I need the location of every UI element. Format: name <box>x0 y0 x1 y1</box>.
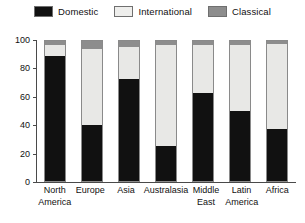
y-tick-label: 80 <box>20 63 30 73</box>
bar-segment-domestic <box>82 125 102 181</box>
category-label-line: Middle <box>188 184 224 196</box>
bar-slot <box>184 40 221 182</box>
bar-slot <box>37 40 74 182</box>
bar-segment-domestic <box>193 93 213 181</box>
stacked-bar[interactable] <box>229 40 251 182</box>
x-axis-line <box>36 182 296 183</box>
category-label-north-america: NorthAmerica <box>37 184 73 220</box>
stacked-bar-chart: Domestic International Classical 100 80 … <box>0 0 305 223</box>
category-label-line: Asia <box>108 184 144 196</box>
category-label-line: America <box>37 196 73 208</box>
y-tick-label: 0 <box>25 177 30 187</box>
legend-label-international: International <box>138 6 192 17</box>
category-label-line: Australasia <box>144 184 189 196</box>
stacked-bar[interactable] <box>44 40 66 182</box>
bar-segment-international <box>193 45 213 93</box>
bar-segment-domestic <box>230 111 250 181</box>
y-tick-label: 40 <box>20 120 30 130</box>
bar-segment-international <box>119 47 139 79</box>
bar-slot <box>221 40 258 182</box>
stacked-bar[interactable] <box>81 40 103 182</box>
plot-area: 100 80 60 40 20 0 <box>37 40 295 182</box>
bar-segment-international <box>267 44 287 129</box>
legend-swatch-domestic <box>34 6 53 17</box>
bar-segment-international <box>230 45 250 111</box>
bar-slot <box>74 40 111 182</box>
category-label-latin-america: LatinAmerica <box>224 184 260 220</box>
category-label-line: North <box>37 184 73 196</box>
legend-swatch-classical <box>208 6 227 17</box>
bar-segment-domestic <box>119 79 139 181</box>
y-tick-label: 60 <box>20 92 30 102</box>
category-label-line: Europe <box>73 184 109 196</box>
category-label-line: Latin <box>224 184 260 196</box>
legend-item-classical: Classical <box>208 6 271 17</box>
bar-segment-domestic <box>45 56 65 181</box>
category-label-line: America <box>224 196 260 208</box>
category-label-europe: Europe <box>73 184 109 220</box>
y-tick-mark <box>33 182 37 183</box>
bar-group <box>37 40 295 182</box>
chart-legend: Domestic International Classical <box>0 6 305 17</box>
legend-label-classical: Classical <box>232 6 271 17</box>
stacked-bar[interactable] <box>118 40 140 182</box>
legend-item-domestic: Domestic <box>34 6 98 17</box>
category-label-africa: Africa <box>259 184 295 220</box>
category-label-australasia: Australasia <box>144 184 189 220</box>
bar-slot <box>111 40 148 182</box>
legend-swatch-international <box>114 6 133 17</box>
bar-segment-international <box>45 45 65 56</box>
bar-segment-classical <box>82 41 102 49</box>
stacked-bar[interactable] <box>155 40 177 182</box>
bar-segment-international <box>82 49 102 125</box>
category-label-asia: Asia <box>108 184 144 220</box>
stacked-bar[interactable] <box>192 40 214 182</box>
category-label-line: Africa <box>259 184 295 196</box>
x-axis-category-labels: NorthAmericaEuropeAsiaAustralasiaMiddleE… <box>37 184 295 220</box>
bar-segment-domestic <box>156 146 176 181</box>
category-label-line: East <box>188 196 224 208</box>
bar-segment-domestic <box>267 129 287 181</box>
legend-item-international: International <box>114 6 192 17</box>
y-tick-label: 100 <box>15 35 30 45</box>
bar-slot <box>148 40 185 182</box>
stacked-bar[interactable] <box>266 40 288 182</box>
bar-slot <box>258 40 295 182</box>
bar-segment-international <box>156 45 176 146</box>
y-tick-label: 20 <box>20 149 30 159</box>
category-label-middle-east: MiddleEast <box>188 184 224 220</box>
legend-label-domestic: Domestic <box>58 6 98 17</box>
